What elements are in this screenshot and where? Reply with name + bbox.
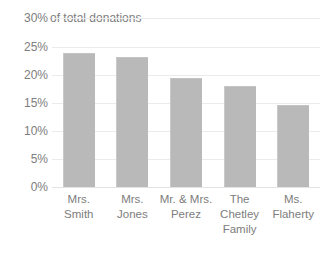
- y-axis-tick-label-5: 5%: [0, 153, 48, 165]
- y-axis-tick-label-25: 25%: [0, 41, 48, 53]
- y-axis-tick-label-0: 0%: [0, 181, 48, 193]
- bar-slot: [106, 19, 160, 187]
- bar[interactable]: [224, 86, 256, 187]
- plot-area: [52, 19, 320, 187]
- bar[interactable]: [116, 57, 148, 187]
- y-axis-tick-label-30: 30%: [0, 11, 48, 25]
- y-axis-tick-label-15: 15%: [0, 97, 48, 109]
- x-axis-category-label: Mrs. Jones: [106, 192, 160, 237]
- x-axis-category-label: Ms. Flaherty: [266, 192, 320, 237]
- bar-series: [52, 19, 320, 187]
- y-axis-tick-label-10: 10%: [0, 125, 48, 137]
- x-axis-labels: Mrs. SmithMrs. JonesMr. & Mrs. PerezThe …: [52, 192, 320, 237]
- bar-slot: [213, 19, 267, 187]
- gridline-baseline-0: [52, 187, 320, 188]
- y-axis-tick-label-20: 20%: [0, 69, 48, 81]
- x-axis-category-label: Mrs. Smith: [52, 192, 106, 237]
- bar-slot: [52, 19, 106, 187]
- bar[interactable]: [277, 105, 309, 187]
- bar-slot: [266, 19, 320, 187]
- bar-chart: 30% of total donations 25% 20% 15% 10% 5…: [0, 0, 329, 257]
- bar[interactable]: [170, 78, 202, 187]
- x-axis-category-label: Mr. & Mrs. Perez: [159, 192, 213, 237]
- bar-slot: [159, 19, 213, 187]
- bar[interactable]: [63, 53, 95, 187]
- x-axis-category-label: The Chetley Family: [213, 192, 267, 237]
